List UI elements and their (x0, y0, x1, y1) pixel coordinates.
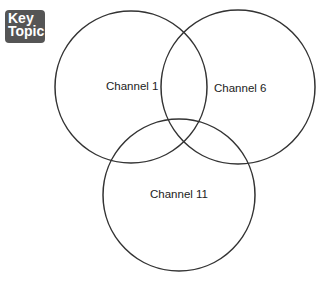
venn-diagram (0, 0, 327, 284)
label-channel-1: Channel 1 (106, 80, 158, 92)
label-channel-6: Channel 6 (214, 82, 266, 94)
label-channel-11: Channel 11 (150, 188, 208, 200)
